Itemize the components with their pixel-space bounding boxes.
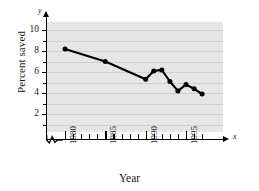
x-axis-tick — [65, 131, 66, 140]
y-axis-minor-tick — [43, 104, 47, 105]
y-axis-tick — [42, 93, 47, 94]
y-axis-tick — [42, 51, 47, 52]
axis-break-icon — [46, 132, 63, 144]
y-axis-title: Percent saved — [15, 20, 27, 104]
gridline — [47, 93, 223, 94]
x-axis-minor-tick — [97, 134, 98, 140]
x-axis-arrow-icon — [223, 136, 229, 142]
gridline — [47, 114, 223, 115]
x-axis-title: Year — [0, 172, 259, 184]
x-axis-minor-tick — [122, 134, 123, 140]
gridline — [47, 51, 223, 52]
x-axis-minor-tick — [162, 134, 163, 140]
gridline — [47, 104, 223, 105]
gridlines — [47, 22, 223, 132]
x-axis-tick-label: 1990 — [150, 126, 159, 144]
gridline — [47, 62, 223, 63]
x-axis-minor-tick — [89, 134, 90, 140]
y-axis-variable-label: y — [38, 6, 42, 15]
y-axis-tick — [42, 30, 47, 31]
line-chart: y x 2468101980198519901995 Percent saved… — [0, 0, 259, 191]
y-axis-tick — [42, 72, 47, 73]
x-axis-tick — [186, 131, 187, 140]
x-axis-minor-tick — [81, 134, 82, 140]
y-axis-tick — [42, 114, 47, 115]
x-axis-tick-label: 1985 — [109, 126, 118, 144]
gridline — [47, 41, 223, 42]
x-axis-tick-label: 1995 — [190, 126, 199, 144]
x-axis-tick — [146, 131, 147, 140]
y-axis-tick-label: 2 — [20, 109, 39, 119]
x-axis-variable-label: x — [233, 132, 237, 141]
y-axis-line — [46, 16, 47, 140]
gridline — [47, 83, 223, 84]
y-axis-minor-tick — [43, 62, 47, 63]
y-axis-arrow-icon — [43, 11, 49, 17]
x-axis-minor-tick — [130, 134, 131, 140]
x-axis-tick-label: 1980 — [69, 126, 78, 144]
gridline — [47, 30, 223, 31]
x-axis-minor-tick — [178, 134, 179, 140]
y-axis-minor-tick — [43, 125, 47, 126]
y-axis-minor-tick — [43, 41, 47, 42]
x-axis-tick — [105, 131, 106, 140]
x-axis-minor-tick — [202, 134, 203, 140]
y-axis-minor-tick — [43, 83, 47, 84]
gridline — [47, 72, 223, 73]
x-axis-minor-tick — [138, 134, 139, 140]
x-axis-minor-tick — [170, 134, 171, 140]
plot-area — [47, 22, 223, 132]
